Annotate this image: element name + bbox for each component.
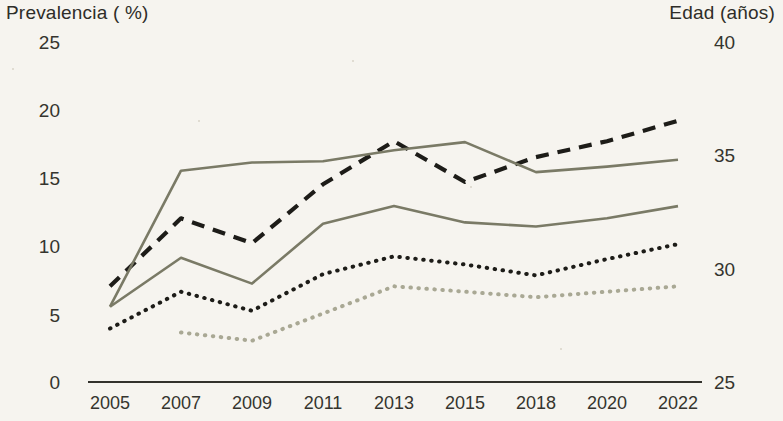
left-tick-10: 10 bbox=[14, 236, 60, 258]
x-tick-2013: 2013 bbox=[359, 393, 429, 414]
paper-speck bbox=[560, 348, 562, 350]
plot-area bbox=[0, 0, 783, 421]
left-tick-15: 15 bbox=[14, 168, 60, 190]
right-tick-25: 25 bbox=[714, 372, 764, 394]
left-tick-25: 25 bbox=[14, 32, 60, 54]
x-tick-2020: 2020 bbox=[572, 393, 642, 414]
paper-speck bbox=[352, 60, 354, 62]
left-tick-20: 20 bbox=[14, 100, 60, 122]
series-line-prevalencia-superior-solida bbox=[110, 142, 678, 307]
series-line-prevalencia-punteada-clara bbox=[181, 286, 678, 340]
x-tick-2007: 2007 bbox=[146, 393, 216, 414]
right-tick-40: 40 bbox=[714, 32, 764, 54]
series-line-prevalencia-inferior-solida bbox=[110, 206, 678, 307]
x-tick-2022: 2022 bbox=[643, 393, 713, 414]
right-tick-35: 35 bbox=[714, 145, 764, 167]
x-axis-baseline bbox=[88, 381, 702, 383]
left-axis-title: Prevalencia ( %) bbox=[6, 2, 149, 24]
x-tick-2009: 2009 bbox=[217, 393, 287, 414]
series-line-prevalencia-punteada-oscura bbox=[110, 244, 678, 328]
paper-speck bbox=[198, 120, 200, 122]
right-axis-title: Edad (años) bbox=[669, 2, 775, 24]
x-tick-2015: 2015 bbox=[430, 393, 500, 414]
left-tick-0: 0 bbox=[14, 372, 60, 394]
series-line-edad-media-dashed bbox=[110, 121, 678, 286]
paper-speck bbox=[470, 186, 472, 188]
x-tick-2018: 2018 bbox=[501, 393, 571, 414]
right-tick-30: 30 bbox=[714, 259, 764, 281]
chart-page: Prevalencia ( %) Edad (años) 25 20 15 10… bbox=[0, 0, 783, 421]
x-tick-2005: 2005 bbox=[75, 393, 145, 414]
left-tick-5: 5 bbox=[14, 305, 60, 327]
x-tick-2011: 2011 bbox=[288, 393, 358, 414]
paper-speck bbox=[12, 68, 14, 70]
